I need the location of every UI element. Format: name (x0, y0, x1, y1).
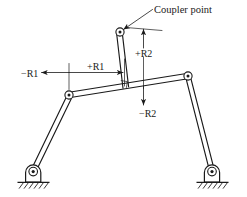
minus-r2-label: −R2 (139, 108, 156, 119)
left-coupler-joint (65, 91, 73, 99)
left-ground-hatching (19, 182, 49, 188)
coupler-point-joint (116, 28, 124, 36)
minus-r1-label: −R1 (21, 68, 38, 79)
right-ground-support (197, 165, 229, 189)
left-crank-link (31, 97, 72, 173)
coupler-point-label: Coupler point (154, 4, 212, 15)
plus-r2-label: +R2 (135, 48, 152, 59)
right-crank-link (186, 77, 214, 171)
r2-dimension-group (126, 28, 162, 106)
linkage-diagram-figure: Coupler point −R1 +R1 +R2 −R2 (0, 0, 247, 197)
diagram-canvas: Coupler point −R1 +R1 +R2 −R2 (0, 0, 247, 197)
r2-top-extension-line (126, 28, 162, 31)
linkage-bars (31, 32, 215, 172)
coupler-point-leader-line (124, 10, 153, 30)
left-ground-support (18, 165, 50, 189)
coupler-offset-link (117, 32, 129, 88)
right-ground-hatching (198, 182, 228, 188)
right-coupler-joint (184, 72, 192, 80)
plus-r1-label: +R1 (87, 61, 104, 72)
